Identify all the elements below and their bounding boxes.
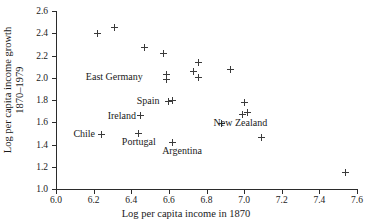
x-tick-label: 7.2 — [266, 195, 298, 205]
x-axis-tick-labels: 6.06.26.46.66.87.07.27.47.6 — [0, 0, 372, 223]
x-tick-label: 7.6 — [341, 195, 372, 205]
x-tick-label: 7.0 — [228, 195, 260, 205]
y-axis-title-line2: 1870–1979 — [14, 0, 26, 190]
x-tick-label: 6.4 — [115, 195, 147, 205]
x-axis-title: Log per capita income in 1870 — [0, 208, 372, 219]
x-tick-label: 6.2 — [78, 195, 110, 205]
y-axis-title-line1: Log per capita income growth — [2, 0, 14, 190]
x-tick-label: 6.0 — [40, 195, 72, 205]
x-tick-label: 6.6 — [153, 195, 185, 205]
x-tick-label: 7.4 — [303, 195, 335, 205]
x-tick-label: 6.8 — [191, 195, 223, 205]
scatter-plot-figure: 1.01.21.41.61.82.02.22.42.6 East Germany… — [0, 0, 372, 223]
y-axis-title: Log per capita income growth 1870–1979 — [2, 0, 26, 190]
